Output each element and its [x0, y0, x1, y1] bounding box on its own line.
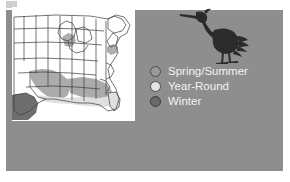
- legend: Spring/Summer Year-Round Winter: [150, 64, 280, 109]
- heron-silhouette: [178, 6, 250, 64]
- legend-swatch-spring-summer: [150, 66, 161, 77]
- heron-silhouette-svg: [178, 6, 250, 64]
- legend-item-spring-summer[interactable]: Spring/Summer: [150, 64, 280, 79]
- legend-item-winter[interactable]: Winter: [150, 94, 280, 109]
- legend-label-year-round: Year-Round: [168, 79, 229, 94]
- legend-swatch-year-round: [150, 81, 161, 92]
- map-svg: [12, 7, 135, 121]
- legend-label-winter: Winter: [168, 94, 201, 109]
- legend-label-spring-summer: Spring/Summer: [168, 64, 248, 79]
- range-map-figure: Spring/Summer Year-Round Winter: [0, 0, 290, 182]
- legend-swatch-winter: [150, 96, 161, 107]
- map-panel: [12, 7, 135, 121]
- legend-item-year-round[interactable]: Year-Round: [150, 79, 280, 94]
- heron-body: [180, 9, 249, 64]
